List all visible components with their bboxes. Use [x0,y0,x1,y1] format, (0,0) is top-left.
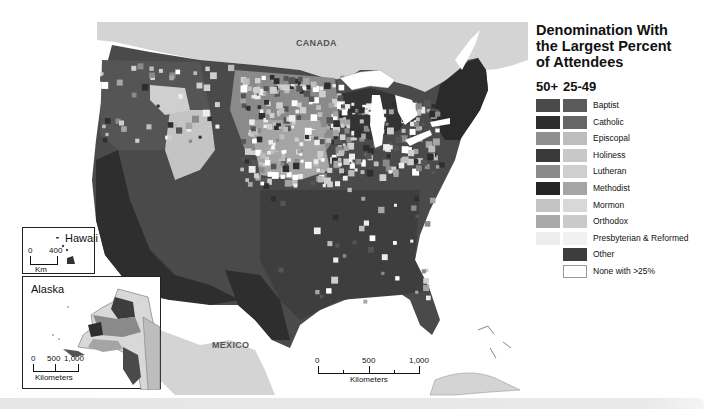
county-cell [294,184,298,188]
county-cell [255,78,261,84]
hawaii-scale-bar [30,256,58,265]
county-cell [205,67,210,72]
county-cell [276,139,279,142]
county-cell [142,84,149,91]
county-cell [348,188,352,192]
legend-item-methodist: Methodist [536,181,704,198]
county-cell [325,164,329,168]
county-cell [296,86,302,92]
main-scale-bar [318,364,420,374]
county-cell [289,77,296,84]
legend-label: Other [593,249,614,259]
county-cell [416,103,422,109]
county-cell [283,127,288,132]
county-cell [149,73,155,79]
county-cell [264,183,270,189]
legend-item-holiness: Holiness [536,148,704,165]
hawaii-scale-unit: Km [35,265,47,274]
county-cell [100,76,105,81]
legend-item-mormon: Mormon [536,198,704,215]
county-cell [260,182,264,186]
county-cell [138,63,144,69]
county-cell [318,112,323,117]
county-cell [255,150,260,155]
county-cell [175,70,180,75]
county-cell [259,168,263,172]
county-cell [146,124,151,129]
county-cell [228,65,234,71]
legend-label: Episcopal [593,133,630,143]
county-cell [410,240,413,243]
county-cell [270,87,277,94]
county-cell [309,96,315,102]
county-cell [207,116,212,121]
county-cell [333,130,339,136]
county-cell [101,82,108,89]
county-cell [343,176,348,181]
county-cell [147,106,153,112]
county-cell [277,113,280,116]
legend-label: Methodist [593,183,630,193]
legend-label: Presbyterian & Reformed [593,233,688,243]
county-cell [426,296,431,301]
county-cell [280,201,285,206]
legend-swatch-25-49 [563,232,587,245]
county-cell [374,162,379,167]
legend-item-baptist: Baptist [536,98,704,115]
county-cell [378,207,384,213]
county-cell [281,175,285,179]
county-cell [102,125,106,129]
county-cell [105,133,108,136]
county-cell [317,169,321,173]
county-cell [279,268,284,273]
county-cell [272,172,279,179]
county-cell [395,276,399,280]
county-cell [333,84,336,87]
canada-label: CANADA [296,38,337,48]
county-cell [189,140,192,143]
legend-swatch-50plus [536,132,560,145]
county-cell [435,112,440,117]
county-cell [282,166,289,173]
county-cell [292,175,298,181]
county-cell [241,157,245,161]
county-cell [416,165,422,171]
county-cell [359,107,365,113]
county-cell [320,139,325,144]
county-cell [273,122,277,126]
county-cell [334,139,339,144]
county-cell [338,150,344,156]
alaska-scale-tick-500: 500 [47,354,60,363]
main-scale-unit: Kilometers [350,375,388,384]
county-cell [243,78,249,84]
county-cell [284,76,289,81]
county-cell [168,122,174,128]
legend-rows: BaptistCatholicEpiscopalHolinessLutheran… [536,98,704,281]
county-cell [317,151,323,157]
alaska-scale-tick-1000: 1,000 [64,354,84,363]
county-cell [303,87,307,91]
county-cell [408,150,414,156]
county-cell [267,124,273,130]
county-cell [259,162,263,166]
county-cell [329,103,334,108]
legend-swatch-50plus [536,149,560,162]
county-cell [197,83,203,89]
county-cell [319,91,326,98]
county-cell [318,157,321,160]
county-cell [263,92,266,95]
county-cell [295,138,299,142]
bottom-band [0,398,704,409]
county-cell [240,168,244,172]
county-cell [248,182,253,187]
county-cell [287,172,292,177]
county-cell [394,172,399,177]
county-cell [355,168,358,171]
legend-label: Holiness [593,150,626,160]
county-cell [264,86,269,91]
county-cell [314,140,319,145]
legend-swatch-50plus [536,116,560,129]
county-cell [432,170,436,174]
county-cell [402,129,406,133]
county-cell [181,84,184,87]
